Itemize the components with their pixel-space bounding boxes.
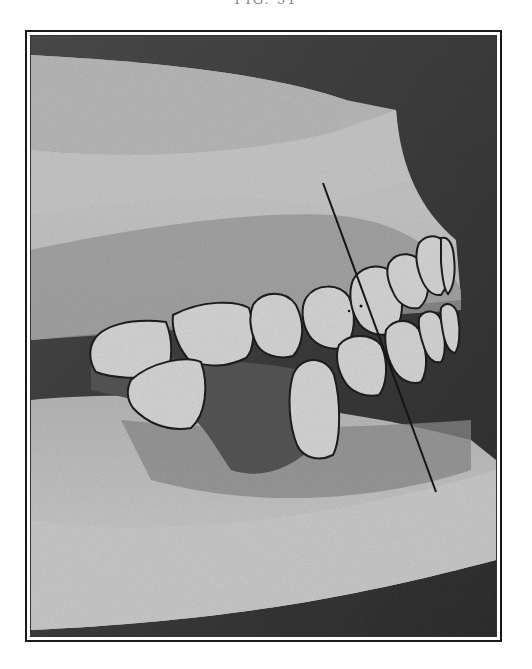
dental-cast-photo xyxy=(31,36,496,636)
upper-molar xyxy=(173,303,254,366)
lower-premolar xyxy=(290,360,340,458)
photo-frame-inner-border xyxy=(30,35,497,637)
figure-caption: FIG. 51 xyxy=(0,0,532,7)
photo-frame xyxy=(25,30,502,642)
upper-premolar xyxy=(250,294,302,358)
